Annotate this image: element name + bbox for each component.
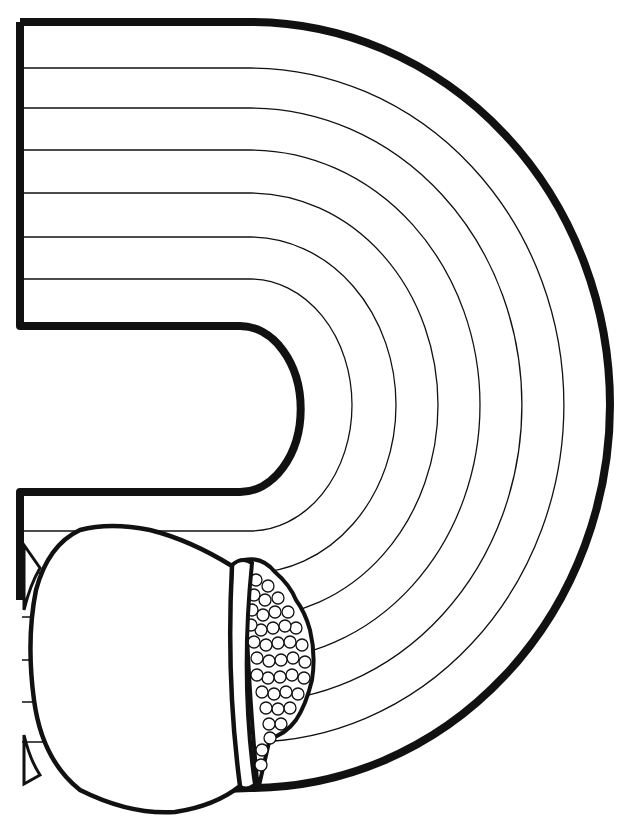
- coloring-page: [0, 0, 630, 834]
- pot-of-gold: [24, 526, 314, 812]
- pot-body: [30, 526, 240, 812]
